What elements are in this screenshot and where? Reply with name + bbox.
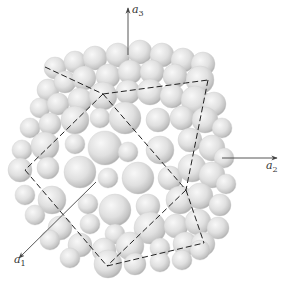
axis-subscript: 3	[139, 9, 144, 18]
sphere-atom	[116, 80, 140, 104]
sphere-atom	[146, 108, 170, 132]
sphere-atom	[94, 250, 122, 278]
axis-label-a2: a2	[266, 160, 278, 174]
sphere-atom	[72, 66, 96, 90]
sphere-atom	[60, 248, 80, 268]
sphere-atom	[185, 209, 211, 235]
sphere-atom	[88, 131, 122, 165]
sphere-atom	[80, 214, 100, 234]
sphere-atom	[212, 118, 232, 138]
crystal-diagram	[0, 0, 293, 288]
sphere-atom	[190, 240, 210, 260]
sphere-atom	[160, 84, 184, 108]
sphere-atom	[12, 140, 32, 160]
sphere-atom	[137, 79, 163, 105]
sphere-atom	[109, 102, 141, 134]
sphere-atom	[146, 136, 174, 164]
sphere-atom	[124, 253, 146, 275]
sphere-atom	[216, 174, 236, 194]
sphere-atom	[122, 162, 154, 194]
sphere-atom	[31, 132, 59, 160]
sphere-atom	[37, 157, 59, 179]
sphere-atom	[98, 168, 118, 188]
sphere-atom	[178, 128, 202, 152]
sphere-atom	[118, 142, 138, 162]
sphere-atom	[65, 134, 85, 154]
sphere-atom	[8, 158, 32, 182]
sphere-atom	[15, 185, 35, 205]
sphere-atom	[89, 82, 117, 110]
sphere-atom	[64, 156, 96, 188]
sphere-atom	[209, 194, 231, 216]
sphere-atom	[40, 230, 60, 250]
sphere-atom	[99, 194, 131, 226]
sphere-cluster	[8, 40, 236, 278]
sphere-atom	[39, 113, 61, 135]
sphere-atom	[25, 205, 45, 225]
axis-label-a1: a1	[14, 254, 26, 268]
sphere-atom	[90, 108, 110, 128]
axis-label-a3: a3	[132, 4, 144, 18]
sphere-atom	[172, 250, 192, 270]
sphere-atom	[61, 106, 89, 134]
axis-subscript: 1	[21, 259, 26, 268]
axis-subscript: 2	[273, 165, 278, 174]
sphere-atom	[170, 106, 194, 130]
